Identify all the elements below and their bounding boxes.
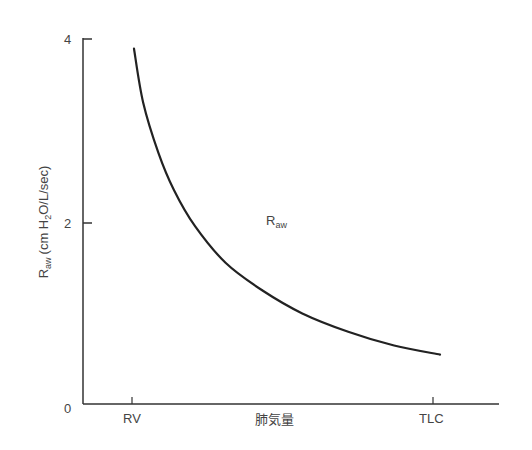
- chart: 4 2 0 RV TLC 肺気量 Raw(cm H2O/L/sec) Raw: [0, 0, 532, 450]
- x-axis-label: 肺気量: [255, 412, 294, 427]
- x-tick-label-rv: RV: [123, 411, 141, 426]
- y-tick-label-0: 0: [64, 401, 71, 416]
- y-tick-label-2: 2: [64, 216, 71, 231]
- raw-curve: [134, 49, 440, 355]
- curve-annotation: Raw: [266, 213, 287, 230]
- y-tick-label-4: 4: [64, 32, 71, 47]
- y-axis-label: Raw(cm H2O/L/sec): [36, 166, 53, 279]
- x-tick-label-tlc: TLC: [419, 411, 444, 426]
- svg-text:Raw(cm H2O/L/sec): Raw(cm H2O/L/sec): [36, 166, 53, 279]
